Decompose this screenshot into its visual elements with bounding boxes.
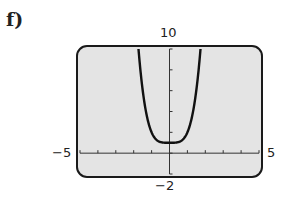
graph-screen — [0, 0, 283, 197]
